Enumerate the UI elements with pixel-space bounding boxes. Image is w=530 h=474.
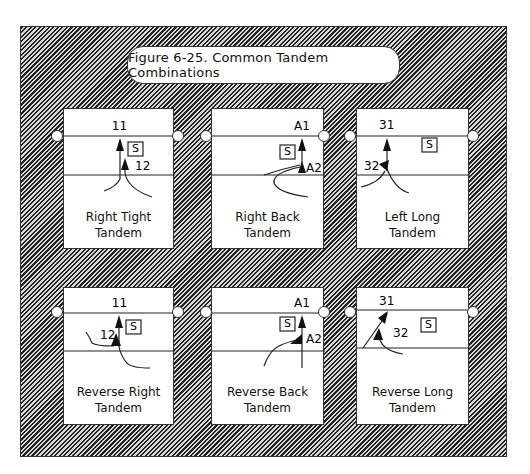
circle-marker	[51, 130, 63, 142]
player-bottom-label: 32	[364, 159, 379, 173]
circle-marker	[172, 130, 184, 142]
circle-marker	[318, 130, 330, 142]
panel-right-tight: 11 S 12 Right Tight Tandem	[63, 108, 174, 249]
player-top-label: 31	[379, 294, 394, 308]
circle-marker	[467, 306, 479, 318]
panel-right-back: A1 S A2 Right Back Tandem	[211, 108, 324, 249]
box-label: S	[421, 318, 436, 331]
box-label: S	[126, 320, 141, 333]
box-label: S	[280, 317, 295, 330]
circle-marker	[344, 130, 356, 142]
figure-title: Figure 6-25. Common Tandem Combinations	[127, 46, 400, 84]
caption-line-2: Tandem	[64, 400, 173, 416]
circle-marker	[51, 306, 63, 318]
player-bottom-label: A2	[306, 332, 322, 346]
caption-line-1: Left Long	[357, 209, 468, 225]
box-label: S	[128, 142, 143, 155]
circle-marker	[467, 130, 479, 142]
box-label: S	[280, 145, 295, 158]
panel-left-long: 31 S 32 Left Long Tandem	[356, 108, 469, 249]
circle-marker	[200, 130, 212, 142]
box-label: S	[422, 138, 437, 151]
player-bottom-label: 12	[135, 159, 150, 173]
caption-line-2: Tandem	[357, 225, 468, 241]
caption-line-1: Right Tight	[64, 209, 173, 225]
circle-marker	[318, 306, 330, 318]
caption-line-2: Tandem	[212, 400, 323, 416]
panel-reverse-back: A1 S A2 Reverse Back Tandem	[211, 287, 324, 425]
player-bottom-label: 32	[393, 326, 408, 340]
circle-marker	[344, 306, 356, 318]
caption-line-1: Reverse Right	[64, 384, 173, 400]
caption-line-1: Reverse Long	[357, 384, 468, 400]
player-bottom-label: A2	[306, 161, 322, 175]
circle-marker	[200, 306, 212, 318]
player-top-label: A1	[294, 119, 310, 133]
player-top-label: 11	[64, 119, 175, 133]
caption-line-2: Tandem	[64, 225, 173, 241]
player-top-label: A1	[294, 296, 310, 310]
circle-marker	[172, 306, 184, 318]
panel-reverse-right: 11 S 12 Reverse Right Tandem	[63, 287, 174, 425]
player-top-label: 11	[64, 296, 175, 310]
caption-line-2: Tandem	[357, 400, 468, 416]
player-top-label: 31	[379, 118, 394, 132]
panel-reverse-long: 31 S 32 Reverse Long Tandem	[356, 287, 469, 425]
caption-line-1: Right Back	[212, 209, 323, 225]
caption-line-2: Tandem	[212, 225, 323, 241]
caption-line-1: Reverse Back	[212, 384, 323, 400]
player-bottom-label: 12	[100, 328, 115, 342]
